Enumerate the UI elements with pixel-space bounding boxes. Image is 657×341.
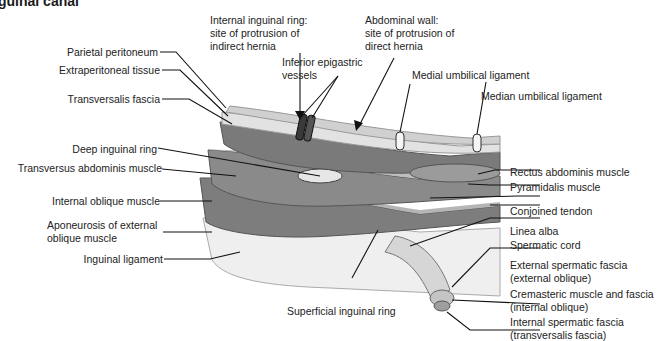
label-conjoined-tendon: Conjoined tendon [510, 205, 592, 218]
median-umbilical-ligament [473, 134, 481, 152]
label-inferior-epigastric-vessels: Inferior epigastric vessels [282, 56, 363, 82]
label-spermatic-cord: Spermatic cord [510, 239, 581, 252]
label-internal-inguinal-ring: Internal inguinal ring: site of protrusi… [210, 14, 307, 53]
label-median-umbilical-ligament: Median umbilical ligament [481, 90, 602, 103]
label-aponeurosis-external-oblique: Aponeurosis of external oblique muscle [47, 219, 157, 245]
label-internal-oblique: Internal oblique muscle [52, 195, 160, 208]
label-superficial-inguinal-ring: Superficial inguinal ring [287, 305, 396, 318]
label-parietal-peritoneum: Parietal peritoneum [67, 46, 158, 59]
label-transversus-abdominis: Transversus abdominis muscle [18, 162, 162, 175]
label-abdominal-wall: Abdominal wall: site of protrusion of di… [365, 14, 454, 53]
label-transversalis-fascia: Transversalis fascia [68, 93, 160, 106]
medial-umbilical-ligament [396, 132, 404, 150]
rectus-pyramidalis [410, 164, 500, 182]
label-internal-spermatic-fascia: Internal spermatic fascia (transversalis… [510, 316, 624, 341]
label-pyramidalis: Pyramidalis muscle [510, 181, 600, 194]
label-medial-umbilical-ligament: Medial umbilical ligament [412, 69, 529, 82]
label-linea-alba: Linea alba [510, 225, 558, 238]
label-cremasteric-muscle: Cremasteric muscle and fascia (internal … [510, 288, 654, 314]
label-external-spermatic-fascia: External spermatic fascia (external obli… [510, 259, 627, 285]
label-extraperitoneal-tissue: Extraperitoneal tissue [59, 64, 160, 77]
label-deep-inguinal-ring: Deep inguinal ring [72, 143, 157, 156]
label-rectus-abdominis: Rectus abdominis muscle [510, 166, 630, 179]
label-inguinal-ligament: Inguinal ligament [84, 253, 163, 266]
